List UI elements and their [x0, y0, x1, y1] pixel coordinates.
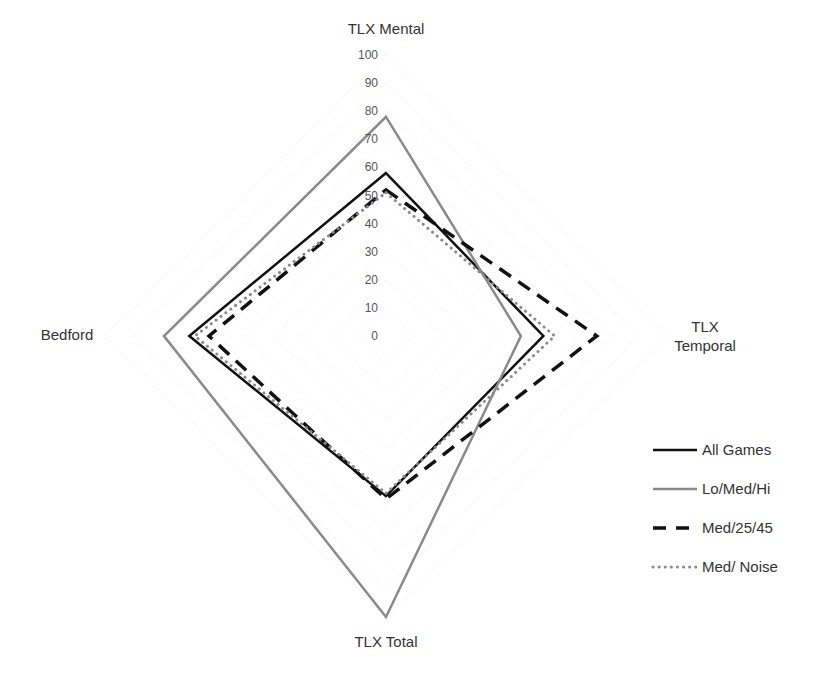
tick-label: 0	[348, 329, 378, 343]
axis-label-tlx-temporal-line1: TLX	[660, 317, 750, 336]
tick-label: 100	[348, 48, 378, 62]
legend-swatch-icon	[651, 482, 699, 496]
grid-ring	[189, 139, 582, 532]
tick-label: 20	[348, 273, 378, 287]
tick-label: 70	[348, 132, 378, 146]
tick-label: 40	[348, 217, 378, 231]
tick-label: 90	[348, 76, 378, 90]
axis-label-tlx-total: TLX Total	[326, 632, 446, 651]
legend-swatch-icon	[651, 521, 699, 535]
legend-label: Med/25/45	[702, 519, 773, 536]
legend-item: Med/25/45	[651, 508, 821, 547]
legend-item: All Games	[651, 430, 821, 469]
chart-legend: All GamesLo/Med/HiMed/25/45Med/ Noise	[651, 430, 821, 586]
tick-label: 10	[348, 301, 378, 315]
axis-label-bedford: Bedford	[22, 325, 112, 344]
series-lo-med-hi	[164, 117, 521, 617]
legend-item: Med/ Noise	[651, 547, 821, 586]
axis-label-tlx-temporal-line2: Temporal	[660, 336, 750, 355]
tick-label: 30	[348, 245, 378, 259]
grid-ring	[217, 167, 554, 504]
legend-label: Lo/Med/Hi	[702, 480, 770, 497]
series-med-noise	[195, 193, 555, 494]
tick-label: 60	[348, 160, 378, 174]
tick-label: 80	[348, 104, 378, 118]
legend-item: Lo/Med/Hi	[651, 469, 821, 508]
legend-label: Med/ Noise	[702, 558, 778, 575]
axis-label-tlx-temporal: TLX Temporal	[660, 317, 750, 355]
grid-ring	[330, 280, 442, 392]
legend-swatch-icon	[651, 443, 699, 457]
tick-label: 50	[348, 189, 378, 203]
legend-label: All Games	[702, 441, 771, 458]
grid-ring	[246, 196, 527, 477]
axis-label-tlx-mental: TLX Mental	[326, 19, 446, 38]
grid-ring	[302, 252, 471, 421]
radar-series	[164, 117, 597, 617]
legend-swatch-icon	[651, 560, 699, 574]
